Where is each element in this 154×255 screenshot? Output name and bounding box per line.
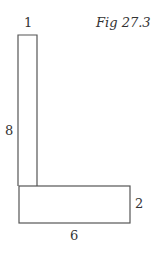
l-shape-diagram [0, 0, 154, 255]
label-left-height: 8 [5, 124, 13, 137]
label-bottom-width: 6 [70, 229, 78, 242]
figure-caption: Fig 27.3 [96, 16, 151, 29]
label-top-width: 1 [24, 16, 32, 29]
label-right-height: 2 [135, 197, 143, 210]
bottom-rectangle [19, 186, 130, 223]
vertical-bar-outline [18, 35, 37, 186]
